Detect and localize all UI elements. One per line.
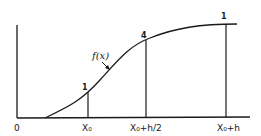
x-label-x0-h: X₀+h — [217, 123, 240, 133]
x-axis — [17, 117, 250, 118]
origin-label: 0 — [14, 123, 20, 133]
weight-x0: 1 — [82, 83, 88, 92]
simpson-rule-diagram: f(x) 0 X₀ X₀+h/2 X₀+h 1 4 1 — [0, 0, 261, 136]
weight-x0-h: 1 — [221, 12, 227, 21]
x-label-x0: X₀ — [82, 123, 92, 133]
curve-label: f(x) — [91, 50, 109, 61]
weight-x0-half-h: 4 — [141, 31, 147, 40]
x-label-x0-half-h: X₀+h/2 — [130, 123, 162, 133]
